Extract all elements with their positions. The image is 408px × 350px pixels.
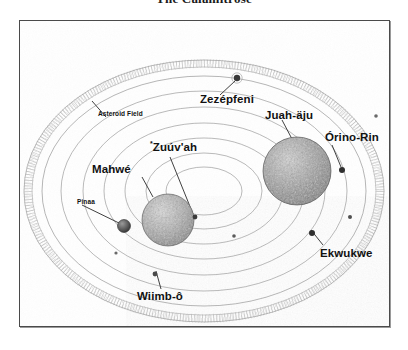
- label-orino-rin: Órino-Rin: [325, 131, 379, 143]
- label-pinaa: Pinaa: [77, 198, 95, 205]
- marker-orino-rin: [339, 167, 345, 173]
- page-title: The Calamitrôse: [0, 0, 408, 7]
- marker-minor-body-a: [348, 215, 352, 219]
- label-juah-aju: Juah-äju: [265, 109, 313, 121]
- planet-juah-aju: [263, 137, 331, 205]
- planet-pinaa: [118, 220, 131, 233]
- label-zezepfeni: Zezépfeni: [200, 93, 254, 105]
- label-zuuvah-text: Zuúv'ah: [153, 141, 197, 153]
- label-mahwe: Mahwé: [92, 163, 131, 175]
- planet-mahwe: [142, 194, 194, 246]
- marker-ekwukwe: [309, 230, 315, 236]
- label-zuuvah: *Zuúv'ah: [150, 140, 197, 153]
- diagram-plate: Zezépfeni Juah-äju Órino-Rin *Zuúv'ah Ma…: [19, 20, 390, 327]
- label-asteroid-field: Asteroid Field: [98, 110, 143, 117]
- marker-minor-body-b: [232, 234, 236, 238]
- marker-minor-body-d: [114, 251, 117, 254]
- marker-zuuvah: [193, 215, 198, 220]
- orrery-diagram: [20, 21, 389, 326]
- label-ekwukwe: Ekwukwe: [320, 247, 372, 259]
- marker-minor-body-c: [374, 114, 378, 118]
- marker-zezepfeni: [234, 75, 240, 81]
- marker-wiimbo: [153, 272, 158, 277]
- label-wiimbo: Wiimb-ô: [137, 290, 183, 302]
